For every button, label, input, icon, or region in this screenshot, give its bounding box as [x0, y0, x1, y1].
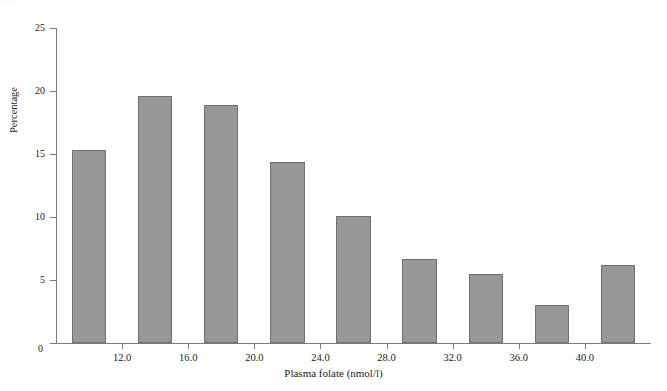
x-tick-label: 40.0: [555, 352, 615, 364]
x-tick-label: 12.0: [92, 352, 152, 364]
plot-area: 510152025 12.016.020.024.028.032.036.040…: [0, 0, 667, 391]
y-tick-mark: [50, 217, 56, 218]
x-tick-mark: [519, 343, 520, 349]
y-tick-label: 10: [5, 212, 45, 222]
y-tick-mark: [50, 91, 56, 92]
x-tick-mark: [387, 343, 388, 349]
x-tick-label: 24.0: [290, 352, 350, 364]
x-tick-mark: [320, 343, 321, 349]
histogram-bar: [336, 216, 370, 343]
y-axis-title: Percentage: [8, 50, 20, 170]
x-tick-mark: [122, 343, 123, 349]
histogram-bar: [270, 162, 304, 343]
x-tick-label: 16.0: [158, 352, 218, 364]
x-tick-label: 36.0: [489, 352, 549, 364]
y-tick-mark: [50, 154, 56, 155]
y-axis-line: [56, 28, 57, 343]
x-tick-label: 32.0: [423, 352, 483, 364]
x-axis-title: Plasma folate (nmol/l): [0, 366, 667, 380]
x-tick-label: 28.0: [357, 352, 417, 364]
histogram-bar: [402, 259, 436, 343]
histogram-bar: [535, 305, 569, 343]
x-axis-line: [56, 343, 651, 344]
histogram-figure: · · · 510152025 12.016.020.024.028.032.0…: [0, 0, 667, 391]
y-tick-label: 25: [5, 23, 45, 33]
histogram-bar: [72, 150, 106, 343]
y-tick-mark: [50, 280, 56, 281]
x-tick-mark: [585, 343, 586, 349]
y-tick-mark: [50, 343, 56, 344]
x-tick-label: 20.0: [224, 352, 284, 364]
x-tick-mark: [188, 343, 189, 349]
y-tick-label: 5: [5, 275, 45, 285]
histogram-bar: [138, 96, 172, 343]
x-tick-mark: [453, 343, 454, 349]
x-tick-mark: [254, 343, 255, 349]
y-axis-origin-label: 0: [38, 344, 43, 354]
histogram-bar: [469, 274, 503, 343]
histogram-bar: [601, 265, 635, 343]
y-tick-mark: [50, 28, 56, 29]
histogram-bar: [204, 105, 238, 343]
